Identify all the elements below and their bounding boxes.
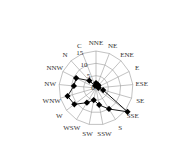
axis-label: NNE [89, 39, 103, 47]
axis-label: SSW [97, 130, 112, 138]
data-point-marker [84, 100, 90, 106]
axis-label: S [118, 124, 122, 132]
axis-label: ENE [120, 51, 134, 59]
axis-label: NW [44, 80, 56, 88]
data-point-marker [73, 75, 79, 81]
wind-rose-chart: NNENEENEEESESESSESSSWSWWSWWWNWNWNNWNC051… [0, 0, 182, 165]
axis-label: ESE [136, 80, 148, 88]
axis-label: C [77, 42, 82, 50]
axis-label: SE [136, 97, 144, 105]
axis-label: W [56, 112, 63, 120]
radial-tick: 15 [76, 49, 84, 57]
axis-label: NNW [46, 64, 63, 72]
axis-label: WNW [43, 97, 62, 105]
axis-label: E [135, 64, 139, 72]
radial-tick: 10 [81, 61, 89, 69]
axis-label: N [62, 51, 67, 59]
axis-label: SW [82, 130, 93, 138]
axis-label: NE [108, 42, 117, 50]
axis-label: WSW [63, 124, 81, 132]
